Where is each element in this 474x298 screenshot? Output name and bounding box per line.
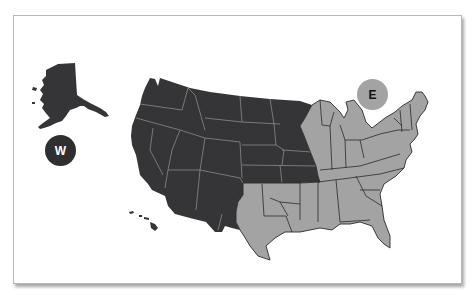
hawaii	[129, 211, 158, 231]
west-region-badge[interactable]: W	[45, 135, 76, 166]
alaska	[32, 63, 109, 129]
east-region-badge[interactable]: E	[357, 79, 388, 110]
